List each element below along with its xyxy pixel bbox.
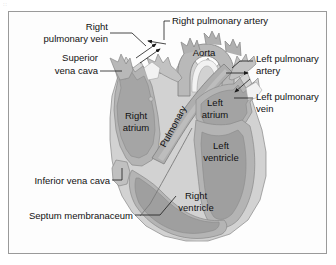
- label-septum-membranaceum: Septum membranaceum: [29, 210, 133, 221]
- label-right-pulmonary-artery: Right pulmonary artery: [172, 15, 268, 26]
- label-right-ventricle-line2: ventricle: [178, 202, 213, 213]
- arrow-right-pulmonary-vein-a: [136, 44, 156, 58]
- label-left-ventricle-line2: ventricle: [203, 152, 238, 163]
- leader-right-pulmonary-vein: [110, 33, 146, 46]
- label-superior-vena-cava-line1: Superior: [62, 52, 98, 63]
- label-left-pulmonary-vein-line2: vein: [256, 103, 273, 114]
- label-left-pulmonary-artery-line1: Left pulmonary: [256, 53, 319, 64]
- leader-right-pulmonary-artery: [164, 21, 170, 40]
- superior-vena-cava-vessel: [110, 54, 133, 80]
- label-right-ventricle-line1: Right: [185, 190, 208, 201]
- label-right-pulmonary-vein-line1: Right: [86, 21, 109, 32]
- atrial-detail-node: [149, 97, 153, 101]
- arrow-right-pulmonary-artery: [148, 41, 166, 44]
- label-left-ventricle-line1: Left: [213, 140, 229, 151]
- label-left-pulmonary-artery-line2: artery: [256, 65, 281, 76]
- label-aorta: Aorta: [193, 47, 216, 58]
- inferior-vena-cava-vessel: [112, 160, 130, 186]
- label-superior-vena-cava-line2: vena cava: [55, 65, 99, 76]
- heart-anatomy-diagram: Right pulmonary vein Right pulmonary art…: [0, 0, 336, 265]
- label-right-atrium-line1: Right: [125, 110, 148, 121]
- label-left-atrium-line2: atrium: [202, 109, 228, 120]
- label-left-atrium-line1: Left: [207, 97, 223, 108]
- label-right-atrium-line2: atrium: [123, 122, 149, 133]
- label-left-pulmonary-vein-line1: Left pulmonary: [256, 91, 319, 102]
- label-right-pulmonary-vein-line2: pulmonary vein: [44, 33, 108, 44]
- figure-root: ::: [0, 0, 336, 265]
- label-inferior-vena-cava: Inferior vena cava: [34, 175, 110, 186]
